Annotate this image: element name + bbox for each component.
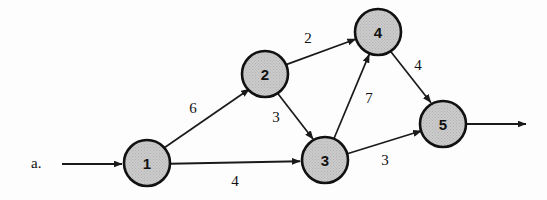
edge-weight-2-to-3: 3 [272, 109, 280, 125]
edge-2-to-4 [286, 39, 356, 65]
part-label: a. [31, 155, 41, 171]
edge-weight-4-to-5: 4 [414, 57, 422, 73]
node-3[interactable]: 3 [302, 137, 348, 183]
edge-weight-3-to-5: 3 [381, 152, 389, 168]
edge-weight-2-to-4: 2 [304, 30, 312, 46]
edge-3-to-4 [334, 54, 369, 138]
node-1[interactable]: 1 [124, 140, 170, 186]
node-1-label: 1 [143, 155, 151, 172]
edge-1-to-3 [170, 161, 300, 164]
edge-2-to-3 [278, 93, 314, 139]
node-4-label: 4 [374, 24, 383, 41]
edge-4-to-5 [391, 51, 432, 102]
node-2-label: 2 [261, 66, 269, 83]
graph-canvas: 1 2 3 4 5 6 4 2 3 7 3 4 a. [0, 0, 547, 200]
node-2[interactable]: 2 [242, 51, 288, 97]
graph-figure: 1 2 3 4 5 6 4 2 3 7 3 4 a. [0, 0, 547, 200]
edge-3-to-5 [347, 131, 421, 154]
edge-weight-1-to-3: 4 [231, 173, 239, 189]
node-5[interactable]: 5 [420, 101, 466, 147]
edge-weight-1-to-2: 6 [189, 100, 197, 116]
node-3-label: 3 [321, 152, 329, 169]
node-5-label: 5 [439, 116, 447, 133]
edge-1-to-2 [164, 89, 249, 148]
node-4[interactable]: 4 [355, 9, 401, 55]
edge-weight-3-to-4: 7 [365, 90, 373, 106]
